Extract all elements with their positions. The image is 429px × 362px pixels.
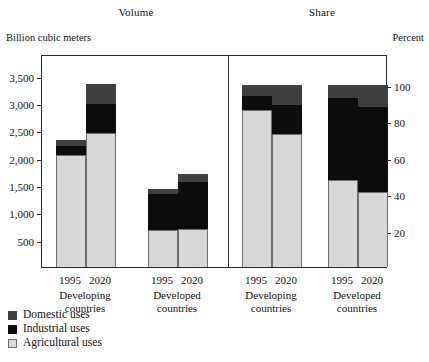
bar-segment-agricultural	[242, 110, 272, 267]
bar-segment-domestic	[242, 85, 272, 96]
bar-segment-domestic	[86, 84, 116, 104]
panel-divider	[228, 56, 229, 267]
bar-segment-agricultural	[328, 180, 358, 267]
x-axis-year-label: 2020	[361, 274, 383, 286]
group-label-line2: countries	[153, 302, 201, 315]
group-label-line2: countries	[245, 302, 296, 315]
plot-area: 5001,0001,5002,0002,5003,0003,5002040608…	[41, 55, 387, 268]
right-axis-tick-label: 100	[394, 81, 411, 92]
left-axis-tick-label: 2,000	[9, 154, 34, 165]
left-axis-tick-label: 2,500	[9, 127, 34, 138]
bar-segment-domestic	[358, 85, 388, 107]
bar-volume-developed-1995	[148, 189, 178, 267]
panel-title-share: Share	[262, 6, 382, 18]
legend-label-industrial: Industrial uses	[23, 323, 90, 335]
right-axis-tick-label: 80	[394, 118, 405, 129]
left-axis-tick-label: 3,500	[9, 72, 34, 83]
bar-segment-agricultural	[358, 192, 388, 267]
x-axis-group-label-volume-developed: Developedcountries	[153, 289, 201, 315]
legend-swatch-agricultural-icon	[8, 339, 17, 348]
group-label-line2: countries	[59, 302, 110, 315]
left-axis-tick	[37, 132, 42, 133]
bar-segment-agricultural	[56, 155, 86, 267]
bar-segment-agricultural	[272, 134, 302, 267]
x-axis-year-label: 1995	[331, 274, 353, 286]
bar-share-developing-1995	[242, 85, 272, 267]
right-axis-tick-label: 40	[394, 191, 405, 202]
x-axis-year-label: 1995	[59, 274, 81, 286]
legend-item-industrial: Industrial uses	[8, 322, 102, 336]
x-axis-group-label-volume-developing: Developingcountries	[59, 289, 110, 315]
panel-title-volume: Volume	[76, 6, 196, 18]
left-axis-tick	[37, 214, 42, 215]
bar-segment-industrial	[148, 194, 178, 230]
left-axis-tick	[37, 242, 42, 243]
bar-segment-industrial	[242, 96, 272, 111]
bar-segment-industrial	[358, 107, 388, 193]
legend-swatch-industrial-icon	[8, 325, 17, 334]
left-axis-tick	[37, 105, 42, 106]
left-axis-tick-label: 1,500	[9, 182, 34, 193]
bar-volume-developed-2020	[178, 174, 208, 267]
group-label-line1: Developed	[333, 289, 381, 302]
right-axis-tick-label: 20	[394, 227, 405, 238]
chart-figure: Volume Share Billion cubic meters Percen…	[0, 0, 429, 362]
bar-segment-domestic	[178, 174, 208, 182]
bar-segment-industrial	[178, 182, 208, 230]
bar-share-developed-1995	[328, 85, 358, 267]
left-axis-tick	[37, 187, 42, 188]
left-axis-tick-label: 1,000	[9, 209, 34, 220]
bar-segment-industrial	[272, 105, 302, 134]
group-label-line2: countries	[333, 302, 381, 315]
bar-share-developing-2020	[272, 85, 302, 267]
legend-item-agricultural: Agricultural uses	[8, 336, 102, 350]
bar-segment-domestic	[328, 85, 358, 98]
right-axis-tick-label: 60	[394, 154, 405, 165]
bar-volume-developing-2020	[86, 84, 116, 267]
x-axis-year-label: 2020	[275, 274, 297, 286]
bar-segment-domestic	[272, 85, 302, 105]
left-axis-tick	[37, 78, 42, 79]
bar-segment-agricultural	[178, 229, 208, 267]
x-axis-group-label-share-developing: Developingcountries	[245, 289, 296, 315]
x-axis-group-label-share-developed: Developedcountries	[333, 289, 381, 315]
bar-segment-agricultural	[86, 133, 116, 267]
right-axis-unit-label: Percent	[393, 32, 425, 43]
x-axis-year-label: 2020	[181, 274, 203, 286]
x-axis-year-label: 2020	[89, 274, 111, 286]
group-label-line1: Developing	[245, 289, 296, 302]
left-axis-unit-label: Billion cubic meters	[6, 32, 91, 43]
x-axis-year-label: 1995	[245, 274, 267, 286]
left-axis-tick	[37, 160, 42, 161]
bar-segment-industrial	[56, 146, 86, 155]
bar-segment-agricultural	[148, 230, 178, 267]
bar-segment-industrial	[328, 98, 358, 180]
bar-segment-industrial	[86, 104, 116, 133]
left-axis-tick-label: 500	[18, 236, 35, 247]
group-label-line1: Developing	[59, 289, 110, 302]
group-label-line1: Developed	[153, 289, 201, 302]
legend-swatch-domestic-icon	[8, 311, 17, 320]
left-axis-tick-label: 3,000	[9, 100, 34, 111]
bar-volume-developing-1995	[56, 140, 86, 267]
bar-share-developed-2020	[358, 85, 388, 267]
x-axis-year-label: 1995	[151, 274, 173, 286]
legend-label-agricultural: Agricultural uses	[23, 337, 102, 349]
